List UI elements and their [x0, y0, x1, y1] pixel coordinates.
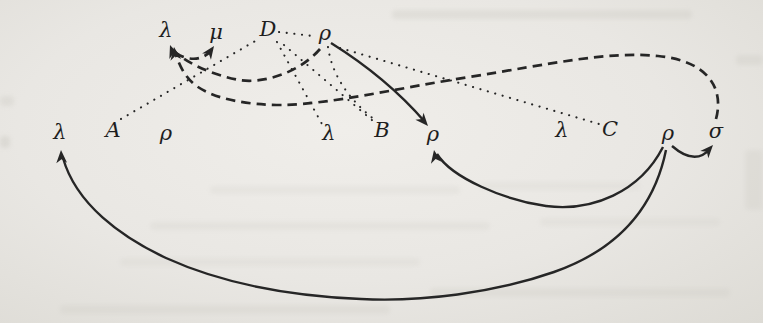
edge-d-top-to-rho-top: [279, 32, 313, 36]
arrowhead-lambda-1: [56, 150, 67, 164]
node-label-mu-top: μ: [209, 20, 223, 44]
node-label-lambda-1: λ: [52, 120, 66, 144]
edge-rho-top-to-rho-2: [331, 43, 425, 122]
node-label-rho-2: ρ: [426, 122, 440, 146]
scanned-page: λμDρλAρλBρλCρσ: [0, 0, 763, 323]
edge-rho-3-to-rho-2: [437, 147, 663, 207]
node-label-c-mid: C: [602, 117, 618, 141]
node-label-b-mid: B: [373, 118, 389, 142]
node-label-rho-3: ρ: [661, 121, 675, 145]
node-label-rho-top: ρ: [318, 21, 332, 45]
edge-sigma-mid-to-lambda-top: [176, 55, 718, 119]
edge-rho-3-to-lambda-1: [63, 150, 666, 300]
node-label-lambda-top: λ: [158, 18, 172, 42]
node-label-lambda-3: λ: [554, 118, 568, 142]
node-label-a-mid: A: [103, 118, 120, 142]
edge-rho-top-to-c-mid: [340, 48, 599, 124]
arrowhead-mu-top: [202, 43, 218, 60]
node-label-lambda-2: λ: [321, 121, 335, 145]
node-label-sigma-mid: σ: [709, 119, 724, 143]
node-label-d-top: D: [259, 17, 277, 41]
diagram-svg: λμDρλAρλBρλCρσ: [0, 0, 763, 323]
edge-d-top-to-b-mid: [284, 45, 373, 121]
edge-rho-top-to-lambda-top: [174, 49, 320, 81]
node-label-rho-1: ρ: [159, 121, 173, 145]
